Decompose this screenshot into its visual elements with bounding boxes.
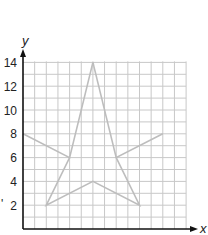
x-axis-arrow-icon: [190, 226, 198, 232]
y-tick-label: 10: [4, 104, 18, 118]
y-tick-label: 14: [4, 56, 18, 70]
y-tick-label: 6: [10, 151, 17, 165]
y-tick-labels: 2468101214: [4, 56, 18, 213]
y-tick-label: 2: [10, 199, 17, 213]
y-tick-label: 12: [4, 80, 18, 94]
coordinate-grid: y x 2468101214 ': [0, 0, 208, 235]
y-axis-label: y: [21, 33, 30, 48]
y-axis-arrow-icon: [20, 49, 26, 57]
x-axis-label: x: [199, 221, 207, 235]
y-tick-label: 4: [10, 175, 17, 189]
stray-mark: ': [1, 197, 3, 211]
y-tick-label: 8: [10, 127, 17, 141]
